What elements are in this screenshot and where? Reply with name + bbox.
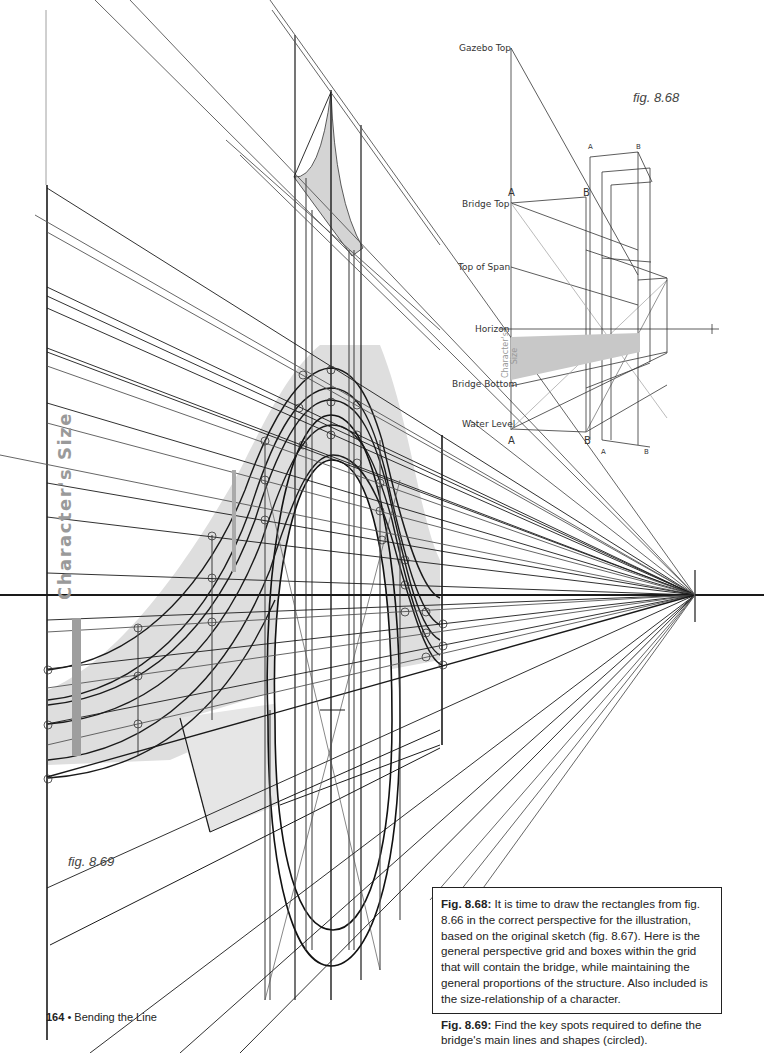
caption-fig-868: Fig. 8.68: It is time to draw the rectan… <box>441 896 713 1007</box>
corner-label-front-top-b: B <box>583 187 590 198</box>
page-footer: 164 • Bending the Line <box>46 1011 157 1023</box>
character-size-bar-large <box>72 618 81 756</box>
fig-868-label: fig. 8.68 <box>633 90 679 105</box>
corner-label-back-bottom-a: A <box>601 448 606 456</box>
fig-869-label: fig. 8.69 <box>68 854 114 869</box>
character-size-bar-small <box>232 470 236 572</box>
caption-box: Fig. 8.68: It is time to draw the rectan… <box>432 887 722 1014</box>
corner-label-front-bottom-b: B <box>584 435 591 446</box>
corner-label-front-bottom-a: A <box>508 435 515 446</box>
corner-label-back-top-b: B <box>636 143 641 151</box>
fig-868-character-shade <box>511 333 640 380</box>
caption-fig-868-text: It is time to draw the rectangles from f… <box>441 897 708 1005</box>
label-gazebo-top: Gazebo Top <box>459 43 511 53</box>
corner-label-front-top-a: A <box>508 187 515 198</box>
book-section-title: Bending the Line <box>74 1011 157 1023</box>
label-top-of-span: Top of Span <box>458 262 510 272</box>
caption-fig-869: Fig. 8.69: Find the key spots required t… <box>441 1017 713 1049</box>
fig-868-character-size-label: Character's Size <box>501 334 519 378</box>
corner-label-back-bottom-b: B <box>644 448 649 456</box>
label-bridge-top: Bridge Top <box>462 199 509 209</box>
page-number: 164 <box>46 1011 64 1023</box>
caption-fig-869-title: Fig. 8.69: <box>441 1018 491 1031</box>
label-water-level: Water Level <box>462 419 515 429</box>
label-bridge-bottom: Bridge Bottom <box>452 379 517 389</box>
fig-869-character-size-label: Character's Size <box>54 412 75 600</box>
corner-label-back-top-a: A <box>588 143 593 151</box>
footer-separator: • <box>67 1011 71 1023</box>
fig-868-drawing <box>500 48 719 447</box>
caption-fig-868-title: Fig. 8.68: <box>441 897 491 910</box>
